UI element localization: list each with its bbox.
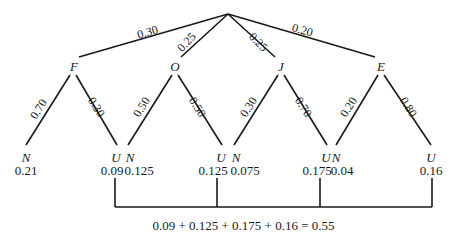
- tree-lines: [0, 0, 457, 242]
- leaf-F-N-value: 0.21: [15, 164, 38, 177]
- leaf-E-N-value: 0.04: [331, 164, 354, 177]
- leaf-J-N-value: 0.075: [230, 164, 259, 177]
- leaf-O-U-value: 0.125: [198, 164, 227, 177]
- leaf-E-U-value: 0.16: [420, 164, 443, 177]
- node-E: E: [377, 60, 385, 73]
- leaf-J-U-value: 0.175: [302, 164, 331, 177]
- sum-equation: 0.09 + 0.125 + 0.175 + 0.16 = 0.55: [0, 219, 457, 232]
- node-O: O: [170, 60, 179, 73]
- leaf-F-U-value: 0.09: [101, 164, 124, 177]
- leaf-O-N-value: 0.125: [124, 164, 153, 177]
- node-J: J: [278, 60, 284, 73]
- node-F: F: [70, 60, 78, 73]
